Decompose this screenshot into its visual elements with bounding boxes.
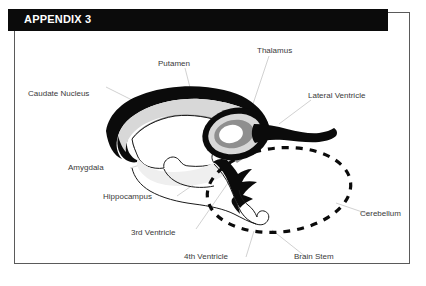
brain-diagram-svg <box>14 12 410 264</box>
label-cerebellum: Cerebellum <box>360 210 401 218</box>
brain-diagram: Caudate Nucleus Putamen Thalamus Lateral… <box>14 12 410 264</box>
label-brain-stem: Brain Stem <box>294 253 334 261</box>
label-caudate-nucleus: Caudate Nucleus <box>28 90 89 98</box>
leader-thalamus <box>252 56 269 107</box>
leader-fourth-ventricle <box>246 231 254 257</box>
page-title: APPENDIX 3 <box>24 13 91 25</box>
appendix-page: Caudate Nucleus Putamen Thalamus Lateral… <box>0 0 426 286</box>
leader-lateral-ventricle <box>279 100 311 124</box>
label-hippocampus: Hippocampus <box>103 193 152 201</box>
label-third-ventricle: 3rd Ventricle <box>131 229 175 237</box>
leader-caudate-nucleus <box>106 87 132 100</box>
label-putamen: Putamen <box>158 60 190 68</box>
appendix-header-bar: APPENDIX 3 <box>8 9 388 31</box>
label-thalamus: Thalamus <box>257 47 292 55</box>
lateral-ventricle-shape <box>252 124 337 143</box>
label-lateral-ventricle: Lateral Ventricle <box>308 92 365 100</box>
label-amygdala: Amygdala <box>68 164 104 172</box>
label-fourth-ventricle: 4th Ventricle <box>184 253 228 261</box>
